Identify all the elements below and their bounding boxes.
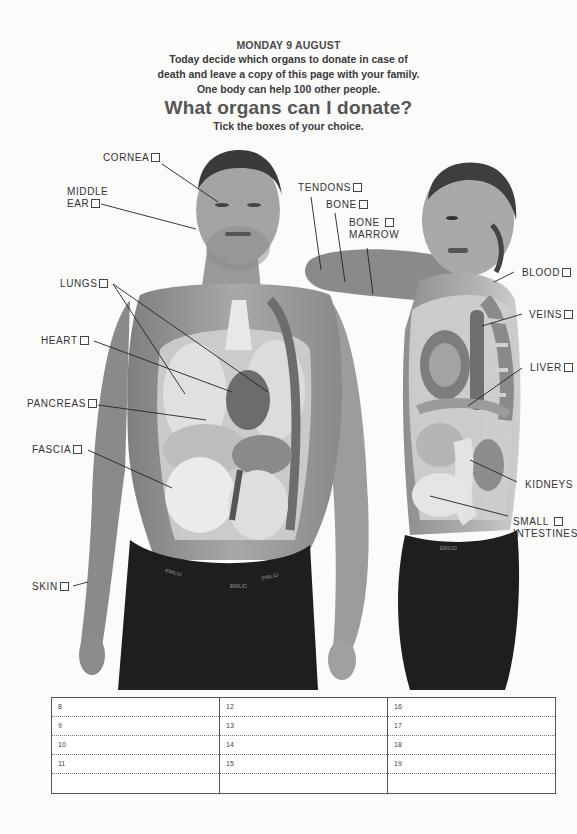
lungs-checkbox[interactable] [99,279,108,288]
planner-slot[interactable] [220,774,387,793]
cornea-label: CORNEA [103,152,149,163]
bone-marrow-checkbox[interactable] [385,218,394,227]
pancreas-label: PANCREAS [27,398,86,409]
organ-option-tendons: TENDONS [298,182,362,194]
heart-label: HEART [41,335,78,346]
skin-label: SKIN [32,581,58,592]
planner-slot[interactable]: 16 [388,698,555,717]
planner-slot[interactable]: 17 [388,717,555,736]
planner-column-3: 16 17 18 19 [388,698,555,793]
organ-option-kidneys: KIDNEYS [525,479,573,491]
organ-option-liver: LIVER [530,362,573,374]
planner-column-2: 12 13 14 15 [220,698,388,793]
blood-label: BLOOD [522,267,560,278]
planner-slot[interactable]: 14 [220,736,387,755]
bone-marrow-label-line-2: MARROW [349,229,399,241]
pancreas-checkbox[interactable] [88,399,97,408]
planner-slot[interactable] [52,774,219,793]
planner-slot[interactable]: 15 [220,755,387,774]
bone-marrow-label-line-1: BONE [349,217,380,228]
svg-text:EMILIO: EMILIO [440,545,457,551]
diary-page: MONDAY 9 AUGUST Today decide which organ… [0,0,577,834]
organ-option-skin: SKIN [32,581,69,593]
small-intestines-checkbox[interactable] [554,517,563,526]
organ-option-veins: VEINS [529,309,573,321]
hourly-planner: 8 9 10 11 12 13 14 15 16 17 18 19 [51,697,556,794]
organ-option-bone-marrow: BONE MARROW [349,217,399,241]
bone-label: BONE [326,199,357,210]
small-intestines-label-line-1: SMALL [513,516,549,527]
tendons-checkbox[interactable] [353,183,362,192]
organ-option-pancreas: PANCREAS [27,398,97,410]
planner-slot[interactable]: 9 [52,717,219,736]
svg-text:EMILIO: EMILIO [230,583,247,589]
planner-slot[interactable]: 11 [52,755,219,774]
organ-option-heart: HEART [41,335,89,347]
planner-slot[interactable]: 18 [388,736,555,755]
kidneys-label: KIDNEYS [525,479,573,490]
liver-label: LIVER [530,362,562,373]
middle-ear-label-line-2: EAR [67,198,89,209]
organ-option-blood: BLOOD [522,267,571,279]
organ-option-fascia: FASCIA [32,444,82,456]
lungs-label: LUNGS [60,278,97,289]
heart-checkbox[interactable] [80,336,89,345]
cornea-checkbox[interactable] [151,153,160,162]
blood-checkbox[interactable] [562,268,571,277]
planner-slot[interactable] [388,774,555,793]
planner-slot[interactable]: 12 [220,698,387,717]
planner-slot[interactable]: 8 [52,698,219,717]
skin-checkbox[interactable] [60,582,69,591]
organ-option-lungs: LUNGS [60,278,108,290]
veins-label: VEINS [529,309,562,320]
fascia-label: FASCIA [32,444,71,455]
small-intestines-label-line-2: INTESTINES [513,528,577,540]
planner-slot[interactable]: 10 [52,736,219,755]
body-illustration: EMILIO EMILIO EMILIO [0,0,577,700]
planner-column-1: 8 9 10 11 [52,698,220,793]
organ-option-bone: BONE [326,199,368,211]
liver-checkbox[interactable] [564,363,573,372]
tendons-label: TENDONS [298,182,351,193]
bone-checkbox[interactable] [359,200,368,209]
organ-option-cornea: CORNEA [103,152,160,164]
middle-ear-checkbox[interactable] [91,199,100,208]
planner-slot[interactable]: 13 [220,717,387,736]
planner-slot[interactable]: 19 [388,755,555,774]
front-figure: EMILIO EMILIO EMILIO [79,150,369,690]
fascia-checkbox[interactable] [73,445,82,454]
veins-checkbox[interactable] [564,310,573,319]
middle-ear-label-line-1: MIDDLE [67,186,108,198]
organ-option-small-intestines: SMALL INTESTINES [513,516,577,540]
organ-option-middle-ear: MIDDLE EAR [67,186,108,210]
